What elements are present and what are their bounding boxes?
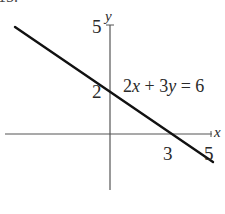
x-tick-3-label: 3 (163, 143, 173, 164)
y-axis-label: y (103, 8, 112, 24)
x-axis-label: x (213, 124, 221, 140)
line-graph: y 5 2 2x + 3y = 6 x 3 5 (0, 0, 225, 214)
x-tick-5-label: 5 (204, 143, 214, 164)
y-tick-2-label: 2 (92, 81, 102, 102)
y-tick-5-label: 5 (92, 16, 102, 37)
equation-label: 2x + 3y = 6 (123, 76, 204, 96)
